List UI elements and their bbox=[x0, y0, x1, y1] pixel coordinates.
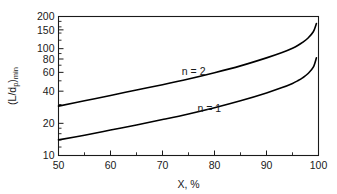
x-tick-label: 90 bbox=[261, 159, 273, 171]
x-tick-label: 70 bbox=[157, 159, 169, 171]
x-tick-label: 100 bbox=[310, 159, 328, 171]
log-line-chart: 1020406080100150200 5060708090100 n = 2n… bbox=[0, 0, 337, 194]
x-tick-label: 80 bbox=[209, 159, 221, 171]
series-label-2: n = 1 bbox=[197, 102, 221, 114]
y-tick-label: 20 bbox=[43, 117, 55, 129]
x-axis-title: X, % bbox=[177, 178, 199, 190]
chart-container: 1020406080100150200 5060708090100 n = 2n… bbox=[0, 0, 337, 194]
x-tick-label: 60 bbox=[105, 159, 117, 171]
y-tick-label: 100 bbox=[37, 42, 55, 54]
y-tick-label: 80 bbox=[43, 53, 55, 65]
y-tick-label: 60 bbox=[43, 66, 55, 78]
y-tick-label: 200 bbox=[37, 10, 55, 22]
x-tick-label: 50 bbox=[53, 159, 65, 171]
y-tick-label: 150 bbox=[37, 24, 55, 36]
series-label-1: n = 2 bbox=[182, 65, 206, 77]
y-tick-label: 40 bbox=[43, 85, 55, 97]
